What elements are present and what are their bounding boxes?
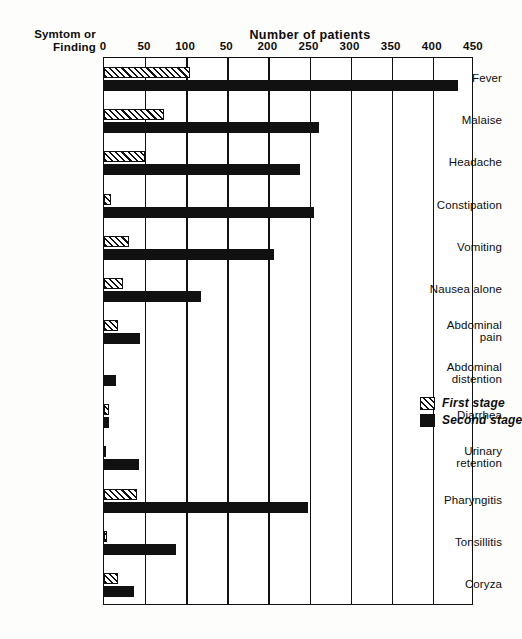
bar-first-stage: [104, 194, 111, 205]
category-label-line: Vomiting: [457, 241, 502, 253]
bar-second-stage: [104, 502, 308, 513]
category-label: Nausea alone: [403, 283, 502, 295]
x-tick-label: 50: [220, 40, 233, 52]
category-label: Headache: [403, 156, 502, 168]
gridline: [392, 58, 393, 604]
bar-first-stage: [104, 278, 123, 289]
bar-second-stage: [104, 375, 116, 386]
category-label: Malaise: [403, 114, 502, 126]
category-label-line: retention: [403, 457, 502, 469]
category-label-line: Headache: [449, 156, 502, 168]
category-label: Abdominaldistention: [403, 361, 502, 385]
category-label-line: Abdominal: [447, 361, 502, 373]
x-tick-label: 300: [340, 40, 360, 52]
category-label-line: distention: [403, 373, 502, 385]
category-label-line: Urinary: [464, 445, 502, 457]
category-label: Fever: [403, 72, 502, 84]
category-label: Pharyngitis: [403, 494, 502, 506]
category-label-line: Abdominal: [447, 319, 502, 331]
x-tick-label: 350: [381, 40, 401, 52]
bar-first-stage: [104, 446, 106, 457]
category-label: Constipation: [403, 199, 502, 211]
bar-first-stage: [104, 151, 145, 162]
gridline: [145, 58, 146, 604]
gridline: [310, 58, 311, 604]
x-tick-label: 400: [422, 40, 442, 52]
category-label: Abdominalpain: [403, 319, 502, 343]
x-tick-label: 100: [175, 40, 195, 52]
x-tick-label: 200: [257, 40, 277, 52]
category-label-line: Constipation: [437, 199, 502, 211]
x-tick-label: 50: [137, 40, 150, 52]
x-tick-label: 0: [100, 40, 107, 52]
bar-first-stage: [104, 236, 129, 247]
y-axis-title-line1: Symtom or: [34, 28, 96, 40]
bar-second-stage: [104, 333, 140, 344]
gridline: [186, 58, 187, 604]
bar-second-stage: [104, 249, 274, 260]
legend-item-first-stage: First stage: [420, 396, 522, 410]
category-label-line: Diarrhea: [457, 409, 502, 421]
bar-second-stage: [104, 417, 109, 428]
category-label-line: pain: [403, 331, 502, 343]
category-label: Diarrhea: [403, 409, 502, 421]
category-label-line: Coryza: [465, 578, 502, 590]
x-tick-label: 450: [463, 40, 483, 52]
bar-second-stage: [104, 586, 134, 597]
category-label: Urinaryretention: [403, 445, 502, 469]
category-label-line: Fever: [472, 72, 502, 84]
category-label-line: Nausea alone: [430, 283, 502, 295]
bar-first-stage: [104, 573, 118, 584]
category-label-line: Pharyngitis: [444, 494, 502, 506]
hatched-swatch-icon: [420, 397, 435, 410]
bar-second-stage: [104, 459, 139, 470]
bar-first-stage: [104, 531, 107, 542]
legend-label-first-stage: First stage: [442, 396, 505, 410]
x-tick-label: 250: [299, 40, 319, 52]
bar-first-stage: [104, 320, 118, 331]
gridline: [351, 58, 352, 604]
bar-second-stage: [104, 291, 201, 302]
bar-second-stage: [104, 122, 319, 133]
bar-first-stage: [104, 109, 164, 120]
bar-second-stage: [104, 544, 176, 555]
gridline: [227, 58, 228, 604]
bar-first-stage: [104, 404, 109, 415]
category-label: Coryza: [403, 578, 502, 590]
category-label: Tonsillitis: [403, 536, 502, 548]
bar-second-stage: [104, 164, 300, 175]
y-axis-title: Symtom or Finding: [18, 28, 96, 54]
bar-first-stage: [104, 67, 190, 78]
category-label: Vomiting: [403, 241, 502, 253]
bar-second-stage: [104, 207, 314, 218]
category-label-line: Tonsillitis: [455, 536, 502, 548]
gridline: [268, 58, 269, 604]
category-label-line: Malaise: [462, 114, 502, 126]
y-axis-title-line2: Finding: [18, 41, 96, 54]
bar-first-stage: [104, 489, 137, 500]
